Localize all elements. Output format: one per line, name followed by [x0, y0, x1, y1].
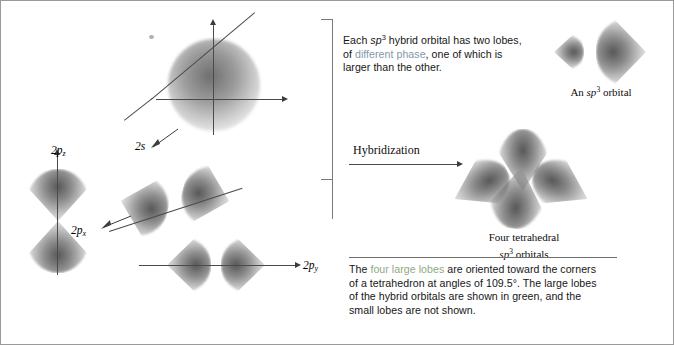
orbital-2pz-group — [19, 161, 109, 281]
bottom-note-line-4: small lobes are not shown. — [349, 304, 629, 318]
axis-z-2pz — [57, 155, 58, 275]
axis-diagonal-leader-2s — [124, 98, 153, 121]
orbital-2s-pointer-icon — [151, 127, 181, 149]
orbital-label-2py: 2py — [303, 258, 318, 274]
axis-vertical-arrow-2s — [210, 19, 216, 25]
single-sp3-orbital-caption: An sp3 orbital — [541, 83, 661, 100]
tetrahedral-caption-line-2: sp3 orbitals — [459, 245, 589, 262]
axis-vertical-2s — [213, 25, 214, 135]
bottom-note-divider — [349, 257, 617, 258]
orbital-label-2px: 2px — [71, 223, 86, 239]
bracket-vertical-stem — [332, 19, 333, 219]
sp3-small-lobe — [554, 34, 584, 70]
note-line-3: larger than the other. — [343, 61, 553, 75]
note-line-2: of different phase, one of which is — [343, 48, 553, 62]
orbital-2px-group — [113, 169, 248, 241]
orbital-2pz-lobe-upper — [27, 169, 89, 221]
tetrahedral-description-note: The four large lobes are oriented toward… — [349, 263, 629, 317]
different-phase-emphasis: different phase — [355, 48, 426, 60]
bottom-note-line-3: of the hybrid orbitals are shown in gree… — [349, 290, 629, 304]
orbital-2s-sphere — [168, 39, 260, 131]
single-sp3-orbital-group — [549, 23, 661, 81]
sp3-large-lobe — [596, 18, 646, 86]
bottom-note-line-1: The four large lobes are oriented toward… — [349, 263, 629, 277]
orbital-2py-group — [159, 237, 309, 297]
bottom-note-line-2: of a tetrahedron at angles of 109.5°. Th… — [349, 277, 629, 291]
note-line-1: Each sp3 hybrid orbital has two lobes, — [343, 31, 553, 48]
hybridization-label: Hybridization — [353, 143, 420, 158]
orbital-2px-lobe-left — [113, 171, 175, 243]
grouping-bracket — [319, 19, 335, 219]
orbital-label-2pz: 2pz — [51, 143, 66, 159]
tetrahedral-caption-line-1: Four tetrahedral — [459, 231, 589, 245]
stray-speck-icon — [149, 35, 154, 39]
axis-y-2py — [139, 265, 297, 266]
orbital-hybridization-figure: 2s 2pz — [0, 0, 674, 345]
orbital-label-2s: 2s — [135, 139, 145, 153]
four-large-lobes-emphasis: four large lobes — [370, 263, 444, 275]
hybridization-arrow-shaft — [349, 164, 459, 165]
bracket-top-arm — [321, 19, 333, 20]
orbital-2px-pointer-icon — [101, 213, 133, 231]
bracket-bottom-arm — [321, 179, 333, 180]
axis-y-arrow-2py — [295, 262, 301, 268]
tetrahedral-sp3-cluster-group — [449, 129, 599, 229]
axis-horizontal-2s — [156, 99, 284, 100]
orbital-2px-lobe-right — [175, 159, 237, 231]
axis-horizontal-arrow-2s — [282, 96, 288, 102]
sp3-description-note: Each sp3 hybrid orbital has two lobes, o… — [343, 31, 553, 75]
left-orbital-panel: 2s 2pz — [1, 1, 311, 345]
